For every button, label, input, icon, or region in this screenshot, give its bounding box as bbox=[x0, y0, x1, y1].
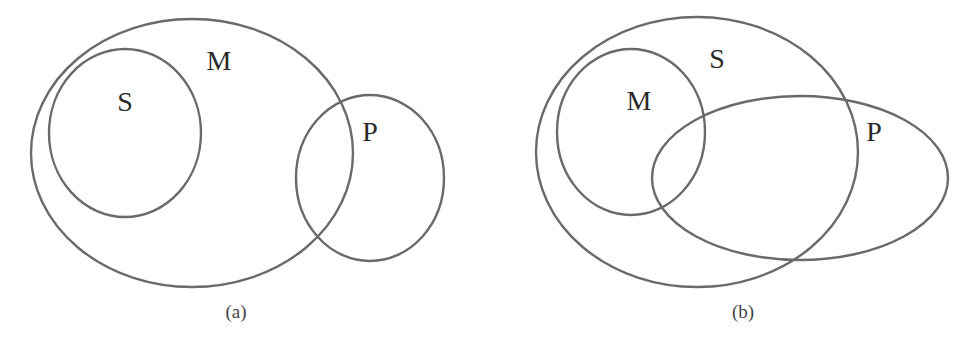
label-s: S bbox=[709, 43, 725, 74]
label-p: P bbox=[362, 116, 378, 147]
figure-b: S M P (b) bbox=[536, 17, 948, 323]
set-s-circle bbox=[49, 49, 201, 217]
set-s-ellipse bbox=[536, 17, 858, 287]
set-m-circle bbox=[557, 49, 705, 215]
label-s: S bbox=[117, 86, 133, 117]
venn-diagrams: M S P (a) S M P (b) bbox=[0, 0, 975, 348]
set-m-ellipse bbox=[31, 19, 353, 287]
label-p: P bbox=[866, 116, 882, 147]
figure-a: M S P (a) bbox=[31, 19, 444, 323]
caption-b: (b) bbox=[732, 301, 754, 323]
label-m: M bbox=[627, 85, 652, 116]
caption-a: (a) bbox=[225, 301, 246, 323]
label-m: M bbox=[207, 45, 232, 76]
set-p-ellipse bbox=[652, 96, 948, 260]
